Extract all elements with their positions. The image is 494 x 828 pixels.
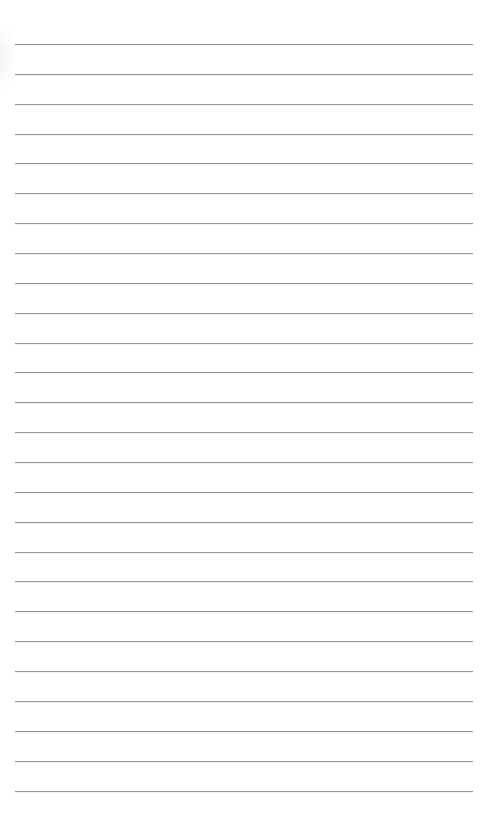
ruled-line: [15, 671, 473, 672]
ruled-line: [15, 313, 473, 314]
ruled-line: [15, 522, 473, 523]
ruled-line: [15, 641, 473, 642]
ruled-line: [15, 432, 473, 433]
ruled-line: [15, 193, 473, 194]
ruled-line: [15, 492, 473, 493]
ruled-line: [15, 581, 473, 582]
lined-paper-page: [0, 0, 494, 828]
ruled-line: [15, 253, 473, 254]
ruled-line: [15, 791, 473, 792]
ruled-line: [15, 134, 473, 135]
ruled-line: [15, 731, 473, 732]
ruled-line: [15, 223, 473, 224]
ruled-line: [15, 163, 473, 164]
ruled-line: [15, 283, 473, 284]
ruled-line: [15, 611, 473, 612]
ruled-line: [15, 44, 473, 45]
ruled-line: [15, 402, 473, 403]
ruled-line: [15, 701, 473, 702]
ruled-line: [15, 552, 473, 553]
ruled-line: [15, 462, 473, 463]
ruled-line: [15, 74, 473, 75]
ruled-line: [15, 343, 473, 344]
ruled-line: [15, 104, 473, 105]
ruled-line: [15, 761, 473, 762]
binder-hole-shadow: [0, 22, 16, 92]
ruled-line: [15, 372, 473, 373]
